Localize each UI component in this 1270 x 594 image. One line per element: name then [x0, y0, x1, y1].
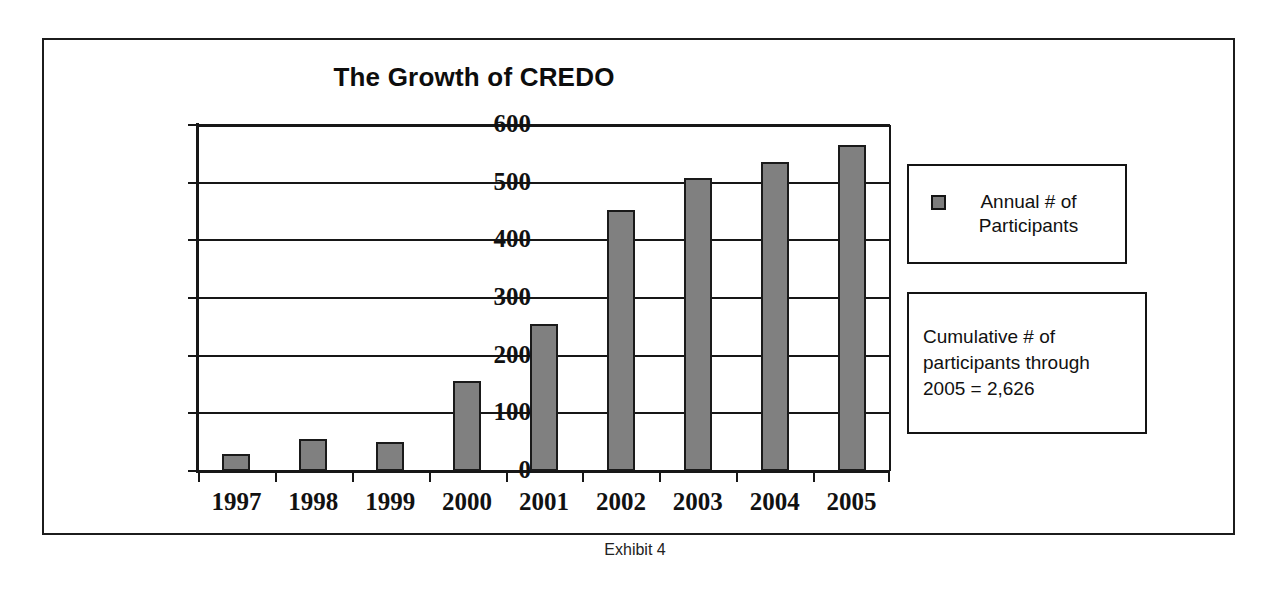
bar[interactable]: [222, 454, 250, 471]
legend-label: Annual # of Participants: [954, 190, 1104, 238]
x-tick-mark: [582, 471, 584, 482]
bar[interactable]: [376, 442, 404, 471]
bar-slot: [198, 125, 275, 471]
x-tick-mark: [736, 471, 738, 482]
exhibit-frame: The Growth of CREDO 0100200300400500600 …: [42, 38, 1235, 535]
x-tick-label: 2005: [807, 488, 897, 516]
bar[interactable]: [838, 145, 866, 471]
exhibit-caption: Exhibit 4: [0, 541, 1270, 559]
y-tick-label: 500: [411, 168, 531, 196]
y-tick-label: 100: [411, 398, 531, 426]
x-axis: 199719981999200020012002200320042005: [198, 471, 890, 531]
y-tick-label: 600: [411, 110, 531, 138]
bar[interactable]: [761, 162, 789, 471]
bar-slot: [659, 125, 736, 471]
bar-slot: [275, 125, 352, 471]
bar-slot: [582, 125, 659, 471]
bar[interactable]: [530, 324, 558, 471]
bar-slot: [736, 125, 813, 471]
bar[interactable]: [299, 439, 327, 471]
annotation-text: Cumulative # of participants through 200…: [909, 324, 1145, 402]
bar[interactable]: [684, 178, 712, 471]
x-tick-mark: [198, 471, 200, 482]
x-tick-mark: [888, 471, 890, 482]
x-tick-mark: [813, 471, 815, 482]
chart-title: The Growth of CREDO: [44, 62, 904, 93]
legend-swatch-icon: [931, 195, 946, 210]
legend-box[interactable]: Annual # of Participants: [907, 164, 1127, 264]
bar[interactable]: [607, 210, 635, 471]
x-tick-mark: [506, 471, 508, 482]
x-tick-mark: [275, 471, 277, 482]
y-tick-label: 400: [411, 225, 531, 253]
plot-area: [198, 125, 890, 471]
annotation-box: Cumulative # of participants through 200…: [907, 292, 1147, 434]
y-tick-label: 300: [411, 283, 531, 311]
legend-entry: Annual # of Participants: [917, 190, 1118, 238]
y-tick-label: 200: [411, 341, 531, 369]
x-tick-mark: [352, 471, 354, 482]
x-tick-mark: [659, 471, 661, 482]
bar-slot: [813, 125, 890, 471]
x-tick-mark: [429, 471, 431, 482]
